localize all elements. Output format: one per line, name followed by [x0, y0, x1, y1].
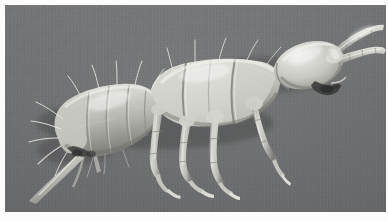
- mount-border-top: [0, 0, 388, 5]
- leg-prothoracic: [251, 103, 291, 186]
- micrograph-plate: [5, 5, 386, 212]
- specimen-illustration: [5, 5, 386, 212]
- springtail-specimen: [5, 5, 386, 212]
- mount-border-left: [0, 0, 5, 222]
- micrograph-viewport: [0, 0, 388, 222]
- mount-border-bottom: [0, 212, 388, 222]
